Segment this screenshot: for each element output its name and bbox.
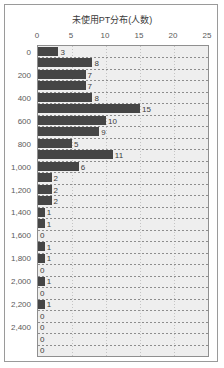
bar-value-label: 0 [40, 312, 44, 321]
y-tick-label: 1,000 [11, 162, 31, 171]
bar-row: 15 [38, 103, 208, 114]
y-tick-label: 2,400 [11, 323, 31, 332]
bar-row: 3 [38, 46, 208, 57]
y-tick-label: 0 [27, 47, 31, 56]
bar-value-label: 2 [54, 185, 58, 194]
bar-row: 2 [38, 172, 208, 183]
bar-row: 0 [38, 310, 208, 321]
bar-value-label: 11 [115, 151, 123, 160]
bar-value-label: 0 [40, 266, 44, 275]
bar-row: 0 [38, 287, 208, 298]
bar-value-label: 1 [47, 220, 51, 229]
bar-value-label: 15 [142, 105, 151, 114]
bar-row: 0 [38, 264, 208, 275]
bar [38, 81, 86, 90]
plot-area: 387781510951162221101101010000 [37, 45, 209, 357]
bar-value-label: 1 [47, 243, 51, 252]
y-tick-label: 800 [18, 139, 31, 148]
bar-value-label: 0 [40, 346, 44, 355]
y-tick-label: 400 [18, 93, 31, 102]
bar-row: 11 [38, 149, 208, 160]
bar-value-label: 1 [47, 277, 51, 286]
x-axis-ticks: 0510152025 [37, 31, 209, 43]
bar [38, 47, 58, 56]
bar-value-label: 1 [47, 254, 51, 263]
bar [38, 254, 45, 263]
bar-row: 8 [38, 92, 208, 103]
bar-value-label: 0 [40, 289, 44, 298]
bar [38, 300, 45, 309]
bar-row: 2 [38, 184, 208, 195]
bar-row: 7 [38, 80, 208, 91]
bar-value-label: 7 [88, 71, 92, 80]
bar [38, 219, 45, 228]
bar [38, 277, 45, 286]
bar-row: 0 [38, 333, 208, 344]
bar-value-label: 2 [54, 174, 58, 183]
bar-value-label: 5 [74, 140, 78, 149]
bar-row: 1 [38, 207, 208, 218]
chart-title: 未使用PT分布(人数) [5, 13, 219, 26]
bar-row: 1 [38, 253, 208, 264]
bar-value-label: 0 [40, 231, 44, 240]
x-tick-label: 0 [35, 31, 39, 40]
bar-value-label: 2 [54, 197, 58, 206]
bar-row: 0 [38, 345, 208, 356]
bar-row: 7 [38, 69, 208, 80]
bar [38, 93, 92, 102]
bar [38, 162, 79, 171]
vertical-gridline [208, 46, 209, 356]
bar-value-label: 7 [88, 82, 92, 91]
y-tick-label: 200 [18, 70, 31, 79]
x-tick-label: 5 [69, 31, 73, 40]
bar-row: 6 [38, 161, 208, 172]
bar-row: 0 [38, 230, 208, 241]
bar-value-label: 0 [40, 335, 44, 344]
bar-value-label: 9 [101, 128, 105, 137]
bar [38, 150, 113, 159]
bar-value-label: 6 [81, 162, 85, 171]
bar-row: 8 [38, 57, 208, 68]
bar-value-label: 3 [60, 48, 64, 57]
bar-row: 1 [38, 241, 208, 252]
bar-value-label: 10 [108, 117, 117, 126]
bar [38, 185, 52, 194]
bar-row: 1 [38, 218, 208, 229]
bar [38, 70, 86, 79]
bar-row: 10 [38, 115, 208, 126]
bar [38, 208, 45, 217]
bar-value-label: 1 [47, 300, 51, 309]
y-tick-label: 1,600 [11, 231, 31, 240]
bar-row: 9 [38, 126, 208, 137]
bar [38, 173, 52, 182]
x-tick-label: 25 [203, 31, 212, 40]
bar-row: 1 [38, 276, 208, 287]
bar [38, 139, 72, 148]
chart-frame: 未使用PT分布(人数) 0510152025 02004006008001,00… [4, 4, 218, 362]
x-tick-label: 10 [101, 31, 110, 40]
y-tick-label: 1,800 [11, 254, 31, 263]
bar-series: 387781510951162221101101010000 [38, 46, 208, 356]
bar-row: 2 [38, 195, 208, 206]
bar [38, 58, 92, 67]
bar [38, 127, 99, 136]
bar-row: 5 [38, 138, 208, 149]
bar [38, 104, 140, 113]
y-tick-label: 2,200 [11, 300, 31, 309]
bar [38, 196, 52, 205]
y-tick-label: 1,200 [11, 185, 31, 194]
y-axis-ticks: 02004006008001,0001,2001,4001,6001,8002,… [5, 45, 35, 357]
y-tick-label: 2,000 [11, 277, 31, 286]
bar-value-label: 8 [94, 94, 98, 103]
y-tick-label: 1,400 [11, 208, 31, 217]
bar [38, 242, 45, 251]
x-tick-label: 15 [135, 31, 144, 40]
bar-value-label: 8 [94, 59, 98, 68]
bar-value-label: 1 [47, 208, 51, 217]
x-tick-label: 20 [169, 31, 178, 40]
bar-value-label: 0 [40, 323, 44, 332]
y-tick-label: 600 [18, 116, 31, 125]
bar-row: 1 [38, 299, 208, 310]
bar [38, 116, 106, 125]
bar-row: 0 [38, 322, 208, 333]
